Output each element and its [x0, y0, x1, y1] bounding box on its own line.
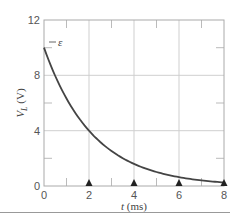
- svg-text:8: 8: [221, 189, 227, 201]
- svg-text:8: 8: [34, 69, 40, 81]
- bottom-rule: [0, 212, 230, 213]
- triangle-marker-icon: [131, 179, 138, 186]
- svg-text:0: 0: [41, 189, 47, 201]
- y-axis-label: VL (V): [14, 88, 29, 118]
- grid: [44, 20, 224, 186]
- chart: ε 0 4 8 12 0 2 4 6 8 VL (V): [0, 0, 235, 215]
- svg-text:2: 2: [86, 189, 92, 201]
- triangle-marker-icon: [176, 179, 183, 186]
- x-tick-labels: 0 2 4 6 8: [41, 189, 227, 201]
- svg-text:0: 0: [34, 180, 40, 192]
- svg-text:4: 4: [34, 125, 40, 137]
- triangle-marker-icon: [86, 179, 93, 186]
- y-tick-labels: 0 4 8 12: [28, 14, 40, 192]
- svg-text:4: 4: [131, 189, 137, 201]
- svg-text:12: 12: [28, 14, 40, 26]
- emf-label: ε: [58, 36, 63, 48]
- svg-text:6: 6: [176, 189, 182, 201]
